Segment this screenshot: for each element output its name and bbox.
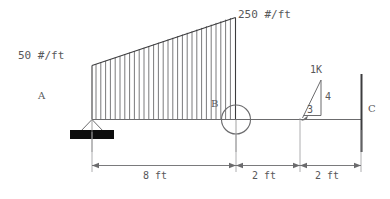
beam-diagram-canvas: 50 #/ft 250 #/ft A B C 1K 4 3 8 ft 2 ft … [0,0,390,199]
load-label-left: 50 #/ft [18,49,64,62]
force-label-1k: 1K [310,64,322,75]
point-label-a: A [38,90,45,101]
slope-label-vertical: 4 [325,91,331,102]
force-arrowhead [301,116,308,122]
dimension-label-span-pc: 2 ft [315,170,339,181]
load-label-right: 250 #/ft [238,8,291,21]
point-label-b: B [211,98,218,109]
dimension-label-span-bp: 2 ft [252,170,276,181]
dimension-label-span-ab: 8 ft [143,170,167,181]
slope-label-horizontal: 3 [307,104,313,115]
dimension-extension-lines [92,118,361,172]
point-label-c: C [368,103,376,114]
